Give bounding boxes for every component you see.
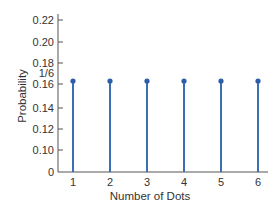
y-tick-label-0.20: 0.20 (33, 36, 54, 48)
x-tick-label-2: 2 (107, 176, 113, 188)
stem-markers (70, 78, 260, 83)
y-tick-label-0.14: 0.14 (33, 102, 54, 114)
y-tick-label-0.10: 0.10 (33, 144, 54, 156)
y-tick-label-0: 0 (48, 166, 54, 178)
stems (73, 81, 258, 172)
y-tick-label-0.12: 0.12 (33, 123, 54, 135)
x-tick-label-6: 6 (255, 176, 261, 188)
x-tick-label-3: 3 (144, 176, 150, 188)
y-tick-label-0.16: 0.16 (33, 78, 54, 90)
x-tick-label-4: 4 (181, 176, 187, 188)
stem-chart: 0.22 0.20 0.18 1/6 0.16 0.14 0.12 0.10 0… (0, 0, 277, 209)
y-tick-label-0.22: 0.22 (33, 14, 54, 26)
x-tick-label-5: 5 (218, 176, 224, 188)
y-axis-title: Probability (16, 69, 28, 123)
y-ticks (58, 20, 63, 150)
x-axis-title: Number of Dots (110, 190, 191, 202)
x-tick-label-1: 1 (70, 176, 76, 188)
